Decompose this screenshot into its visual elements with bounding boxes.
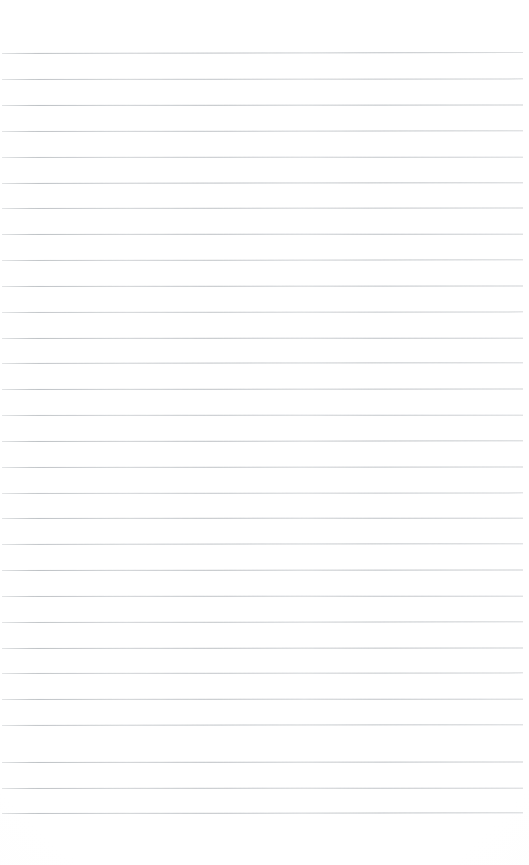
rule-line — [2, 672, 523, 674]
ruled-lines-layer — [0, 0, 529, 865]
rule-line — [2, 130, 523, 132]
rule-line — [2, 648, 523, 649]
rule-line — [2, 699, 523, 700]
rule-line — [2, 52, 523, 54]
rule-line — [2, 543, 523, 545]
rule-line — [2, 415, 523, 416]
rule-line — [2, 286, 523, 287]
rule-line — [2, 621, 523, 623]
rule-line — [2, 105, 523, 106]
rule-line — [2, 362, 523, 364]
rule-line — [2, 518, 523, 519]
rule-line — [2, 388, 523, 390]
rule-line — [2, 157, 523, 158]
rule-line — [2, 207, 523, 209]
rule-line — [2, 338, 523, 339]
rule-line — [2, 724, 523, 726]
rule-line — [2, 569, 523, 571]
rule-line — [2, 761, 523, 763]
rule-line — [2, 78, 523, 80]
rule-line — [2, 492, 523, 494]
rule-line — [2, 234, 523, 235]
rule-line — [2, 467, 523, 468]
rule-line — [2, 182, 523, 184]
rule-line — [2, 259, 523, 261]
rule-line — [2, 311, 523, 313]
rule-line — [2, 788, 523, 789]
rule-line — [2, 440, 523, 442]
scanned-page — [0, 0, 529, 865]
bottom-margin — [0, 813, 529, 865]
rule-line — [2, 596, 523, 597]
